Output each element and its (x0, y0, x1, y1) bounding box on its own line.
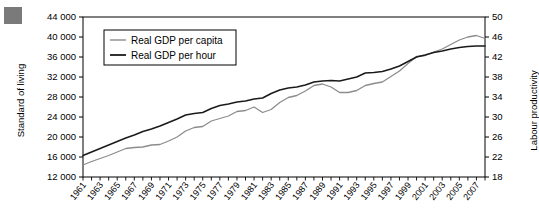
x-axis-tick-label: 2005 (444, 180, 464, 202)
y-axis-right-tick-label: 22 (492, 151, 503, 162)
x-axis-tick-label: 2001 (410, 180, 430, 202)
x-axis-tick-label: 1999 (393, 180, 413, 202)
y-axis-right-tick-label: 50 (492, 11, 503, 22)
y-axis-right-tick-label: 42 (492, 51, 503, 62)
y-axis-left-tick-label: 20 000 (47, 131, 76, 142)
y-axis-left-tick-label: 40 000 (47, 31, 76, 42)
y-axis-right-tick-label: 26 (492, 131, 503, 142)
x-axis-tick-label: 1981 (239, 180, 259, 202)
x-axis-tick-label: 1979 (222, 180, 242, 202)
x-axis-tick-label: 1965 (102, 180, 122, 202)
legend-label-gdp-per-hour: Real GDP per hour (131, 50, 217, 61)
y-axis-left-tick-label: 36 000 (47, 51, 76, 62)
x-axis-tick-label: 2007 (461, 180, 481, 202)
y-axis-right-tick-label: 18 (492, 171, 503, 182)
x-axis-tick-label: 1989 (307, 180, 327, 202)
x-axis-tick-label: 1997 (376, 180, 396, 202)
x-axis-tick-label: 1973 (171, 180, 191, 202)
legend-label-gdp-per-capita: Real GDP per capita (131, 35, 223, 46)
y-axis-left-tick-label: 16 000 (47, 151, 76, 162)
x-axis-tick-label: 1971 (153, 180, 173, 202)
y-axis-right-tick-label: 38 (492, 71, 503, 82)
x-axis-tick-label: 1969 (136, 180, 156, 202)
y-axis-right-tick-label: 46 (492, 31, 503, 42)
y-axis-left-tick-label: 28 000 (47, 91, 76, 102)
x-axis-tick-label: 1961 (68, 180, 88, 202)
x-axis-tick-label: 1993 (342, 180, 362, 202)
x-axis-tick-label: 1985 (273, 180, 293, 202)
x-axis-tick-label: 1977 (205, 180, 225, 202)
x-axis-tick-label: 1975 (188, 180, 208, 202)
y-axis-left-tick-label: 44 000 (47, 11, 76, 22)
y-axis-right-tick-label: 34 (492, 91, 503, 102)
x-axis-tick-label: 1987 (290, 180, 310, 202)
x-axis-tick-label: 1995 (359, 180, 379, 202)
y-axis-left-tick-label: 32 000 (47, 71, 76, 82)
x-axis-tick-label: 1991 (324, 180, 344, 202)
x-axis-tick-label: 1983 (256, 180, 276, 202)
y-axis-left-tick-label: 12 000 (47, 171, 76, 182)
y-axis-right-tick-label: 30 (492, 111, 503, 122)
y-axis-left-tick-label: 24 000 (47, 111, 76, 122)
x-axis-tick-label: 2003 (427, 180, 447, 202)
x-axis-tick-label: 1967 (119, 180, 139, 202)
x-axis-tick-label: 1963 (85, 180, 105, 202)
